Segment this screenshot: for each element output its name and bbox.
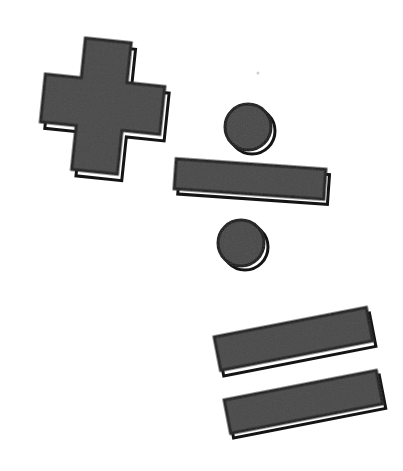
math-symbols-illustration <box>0 0 403 471</box>
plus-sign <box>36 34 173 184</box>
division-dot-lower-body <box>218 220 264 266</box>
division-sign <box>174 104 329 270</box>
division-dot-upper-body <box>225 104 271 150</box>
equals-sign <box>214 307 386 437</box>
equals-bar-lower <box>224 370 386 437</box>
equals-bar-upper <box>214 307 376 375</box>
division-bar <box>174 159 329 205</box>
dust-speck <box>257 72 260 75</box>
division-dot-upper <box>225 104 275 154</box>
division-dot-lower <box>218 220 268 270</box>
plus-sign-body <box>36 34 169 178</box>
image-canvas: Mathematical operator symbols Three hand… <box>0 0 403 471</box>
